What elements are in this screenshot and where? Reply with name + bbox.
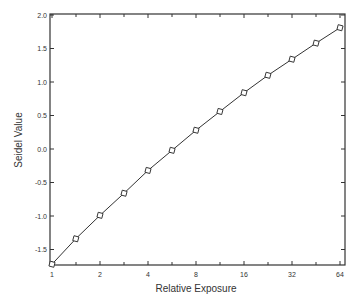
x-tick-label: 2 <box>98 271 102 278</box>
y-tick-label: 0.0 <box>37 146 47 153</box>
y-tick-label: -0.5 <box>35 179 47 186</box>
data-point-marker <box>337 25 343 31</box>
data-point-marker <box>97 212 103 218</box>
chart: 1248163264 -1.5-1.0-0.50.00.51.01.52.0 R… <box>0 0 356 303</box>
data-point-marker <box>241 90 247 96</box>
x-tick-label: 32 <box>288 271 296 278</box>
data-point-marker <box>289 56 295 62</box>
y-tick-label: -1.0 <box>35 213 47 220</box>
data-point-marker <box>313 40 319 46</box>
plot-frame <box>50 14 345 265</box>
data-point-marker <box>49 261 55 267</box>
data-point-marker <box>217 108 223 114</box>
data-point-marker <box>121 190 127 196</box>
y-axis-label: Seidel Value <box>13 112 24 168</box>
plot-border <box>50 14 345 265</box>
x-tick-label: 16 <box>240 271 248 278</box>
y-axis-ticks: -1.5-1.0-0.50.00.51.01.52.0 <box>35 12 345 254</box>
data-point-marker <box>193 127 199 133</box>
y-tick-label: 2.0 <box>37 12 47 19</box>
y-tick-label: 0.5 <box>37 112 47 119</box>
y-tick-label: -1.5 <box>35 246 47 253</box>
data-point-marker <box>265 72 271 78</box>
data-point-marker <box>145 167 151 173</box>
x-tick-label: 64 <box>336 271 344 278</box>
data-point-marker <box>73 236 79 242</box>
x-tick-label: 4 <box>146 271 150 278</box>
x-tick-label: 8 <box>194 271 198 278</box>
y-tick-label: 1.5 <box>37 45 47 52</box>
x-axis-label: Relative Exposure <box>155 283 237 294</box>
data-series <box>49 25 343 268</box>
series-line <box>52 28 340 265</box>
data-point-marker <box>169 147 175 153</box>
x-tick-label: 1 <box>50 271 54 278</box>
y-tick-label: 1.0 <box>37 79 47 86</box>
